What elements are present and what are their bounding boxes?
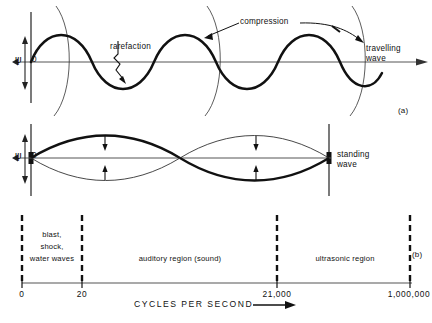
compression-arrowhead-right (355, 35, 364, 43)
rarefaction-arrowhead (119, 76, 126, 84)
amplitude-arrow-up-head-b (22, 134, 28, 142)
wavefront-arc-2 (205, 6, 220, 116)
travelling-wave-axis-arrowhead (416, 58, 428, 65)
compression-label: compression (240, 17, 289, 26)
compression-leader-left (208, 23, 239, 36)
standing-wave-arrow-1-head (102, 144, 107, 151)
region-blast-line1: blast, (26, 231, 78, 240)
panel-a-label: (a) (398, 107, 408, 116)
tick-label-20: 20 (68, 290, 96, 299)
amplitude-arrow-up-head-a (22, 36, 28, 44)
tick-label-0: 0 (10, 290, 34, 299)
standing-wave-label-line2: wave (337, 160, 357, 169)
standing-wave-arrow-3-head (253, 144, 258, 151)
origin-label-travelling: 0 (32, 55, 37, 64)
standing-wave-arrow-4-head (253, 165, 258, 172)
wavefront-arc-1 (54, 6, 69, 116)
standing-wave-panel (12, 124, 332, 196)
travelling-wave-label-line1: travelling (366, 44, 401, 53)
x-axis-title: CYCLES PER SECOND (134, 300, 253, 310)
psi-symbol-standing: ψ (15, 150, 22, 161)
origin-label-standing: 0 (32, 151, 37, 160)
amplitude-arrow-down-head-a (22, 82, 28, 90)
standing-wave-arrow-2-head (102, 165, 107, 172)
compression-arrowhead-left (204, 33, 213, 40)
region-auditory-label: auditory region (sound) (92, 255, 268, 264)
tick-label-1000000: 1,000,000 (378, 290, 432, 299)
region-blast-line2: shock, (26, 243, 78, 252)
rarefaction-label: rarefaction (110, 42, 151, 51)
amplitude-arrow-down-head-b (22, 176, 28, 184)
panel-b-label: (b) (412, 251, 422, 260)
region-ultrasonic-label: ultrasonic region (288, 255, 402, 264)
psi-symbol-travelling: ψ (15, 54, 22, 65)
travelling-wave-label-line2: wave (366, 54, 386, 63)
tick-label-21000: 21,000 (252, 290, 302, 299)
region-blast-line3: water waves (24, 255, 80, 264)
standing-wave-label-line1: standing (337, 150, 370, 159)
cycles-per-second-arrowhead (285, 301, 296, 309)
compression-leader-right (300, 23, 360, 40)
wavefront-arc-3 (350, 6, 365, 116)
